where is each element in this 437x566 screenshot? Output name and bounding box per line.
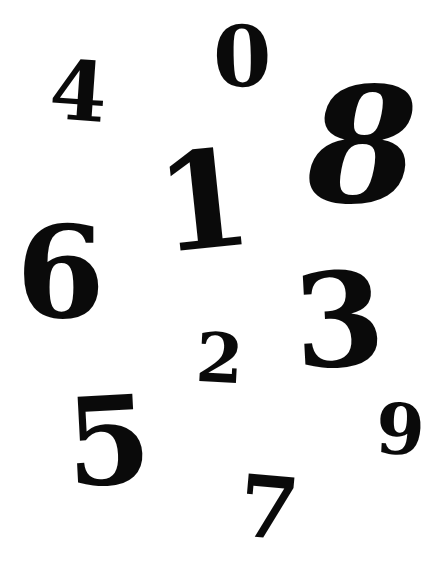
digit-0: 0 [212, 14, 272, 99]
digit-4: 4 [47, 48, 110, 134]
digit-5: 5 [63, 378, 154, 504]
digit-2: 2 [194, 323, 245, 393]
digit-9: 9 [374, 394, 426, 466]
digit-6: 6 [16, 208, 105, 336]
digit-canvas: 4 0 8 1 6 3 2 5 9 7 [0, 0, 437, 566]
digit-8: 8 [307, 66, 418, 226]
digit-3: 3 [291, 254, 388, 389]
digit-7: 7 [235, 463, 302, 554]
digit-1: 1 [150, 129, 257, 272]
